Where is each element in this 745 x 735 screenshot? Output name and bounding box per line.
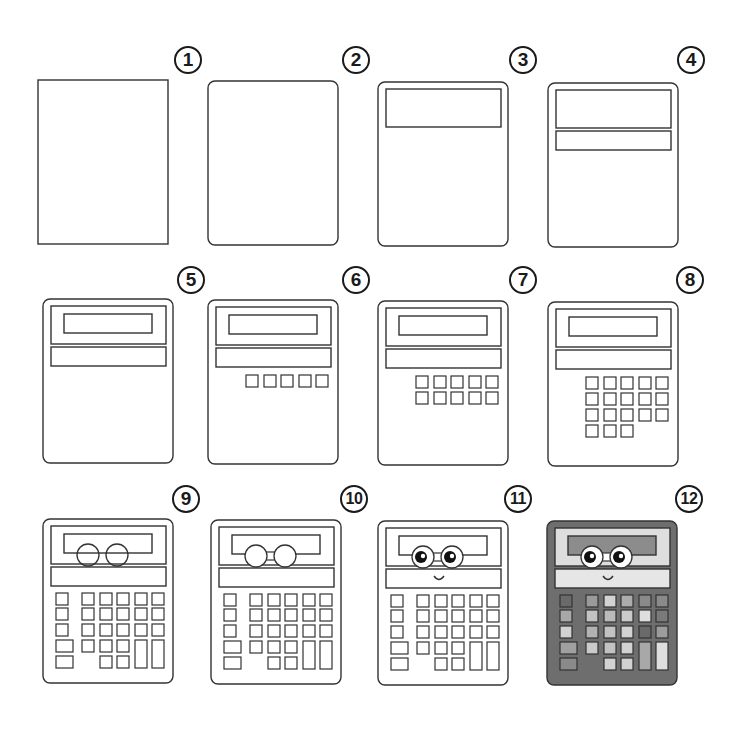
key <box>604 425 616 437</box>
key <box>604 595 616 607</box>
side-key <box>56 624 68 636</box>
calculator-drawing <box>544 79 684 254</box>
eye-outline <box>245 545 267 567</box>
pupil <box>584 551 596 563</box>
eye-outline <box>274 545 296 567</box>
key <box>487 595 499 607</box>
key <box>451 392 463 404</box>
key <box>435 642 447 654</box>
calculator-drawing <box>39 295 179 470</box>
screen-frame <box>386 89 501 127</box>
calculator-drawing <box>544 298 684 473</box>
key <box>417 595 429 607</box>
key <box>417 642 429 654</box>
key <box>285 625 297 637</box>
key <box>487 610 499 622</box>
key <box>586 409 598 421</box>
key <box>152 593 164 605</box>
key <box>82 624 94 636</box>
key <box>135 624 147 636</box>
key <box>604 658 616 670</box>
calculator-drawing <box>374 517 514 692</box>
key <box>299 375 311 387</box>
key <box>285 609 297 621</box>
key <box>100 593 112 605</box>
key <box>268 625 280 637</box>
side-key <box>391 658 408 670</box>
key <box>604 377 616 389</box>
key <box>434 392 446 404</box>
key <box>586 377 598 389</box>
tall-key <box>470 642 482 670</box>
eye-highlight <box>619 554 623 558</box>
solar-bar <box>51 567 166 586</box>
key <box>285 641 297 653</box>
key <box>250 641 262 653</box>
eye-highlight <box>421 554 425 558</box>
key <box>250 609 262 621</box>
key <box>246 375 258 387</box>
key <box>303 609 315 621</box>
key <box>656 595 668 607</box>
key <box>486 376 498 388</box>
side-key <box>560 595 572 607</box>
key <box>435 595 447 607</box>
key <box>303 594 315 606</box>
eye-highlight <box>590 554 594 558</box>
step-number-badge: 8 <box>676 266 704 294</box>
side-key <box>224 609 236 621</box>
key <box>434 376 446 388</box>
key <box>452 595 464 607</box>
side-key <box>391 610 403 622</box>
key <box>82 593 94 605</box>
calculator-drawing <box>204 296 344 471</box>
pupil <box>613 551 625 563</box>
screen-frame <box>556 90 671 128</box>
key <box>656 610 668 622</box>
tall-key <box>135 640 147 668</box>
key <box>82 608 94 620</box>
key <box>320 594 332 606</box>
key <box>621 595 633 607</box>
side-key <box>391 626 403 638</box>
tall-key <box>152 640 164 668</box>
key <box>656 393 668 405</box>
solar-bar <box>555 569 670 588</box>
key <box>117 656 129 668</box>
key <box>621 393 633 405</box>
calculator-body <box>208 81 338 245</box>
side-key <box>56 593 68 605</box>
key <box>604 642 616 654</box>
key <box>639 610 651 622</box>
eye-highlight <box>450 554 454 558</box>
key <box>117 624 129 636</box>
key <box>621 377 633 389</box>
step-number-badge: 2 <box>342 46 370 74</box>
key <box>82 640 94 652</box>
key <box>268 641 280 653</box>
key <box>100 640 112 652</box>
key <box>639 377 651 389</box>
side-key <box>224 657 241 669</box>
side-key <box>560 626 572 638</box>
calculator-drawing <box>39 515 179 690</box>
step-number-badge: 7 <box>509 266 537 294</box>
step-number-badge: 12 <box>675 485 703 513</box>
key <box>586 626 598 638</box>
step-number-badge: 5 <box>177 266 205 294</box>
calculator-drawing <box>543 517 683 692</box>
key <box>268 594 280 606</box>
key <box>303 625 315 637</box>
key <box>469 392 481 404</box>
key <box>586 393 598 405</box>
key <box>320 625 332 637</box>
key <box>656 377 668 389</box>
key <box>656 626 668 638</box>
key <box>639 409 651 421</box>
side-key <box>56 640 73 652</box>
step-number-badge: 11 <box>504 485 532 513</box>
key <box>452 626 464 638</box>
solar-bar <box>556 350 671 369</box>
key <box>117 608 129 620</box>
key <box>586 595 598 607</box>
